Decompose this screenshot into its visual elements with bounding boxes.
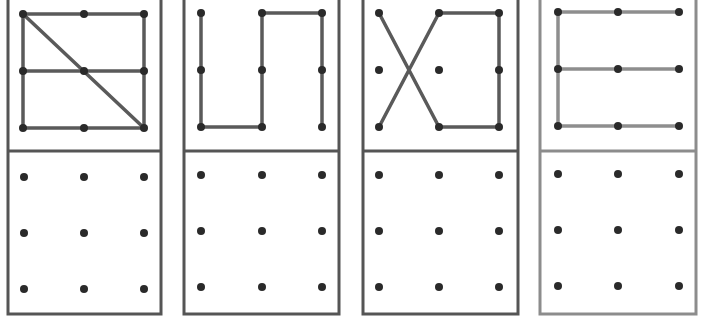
- peg-dot: [318, 9, 326, 17]
- peg-dot: [614, 8, 622, 16]
- peg-dot: [258, 283, 266, 291]
- peg-dot: [140, 229, 148, 237]
- peg-dot: [554, 65, 562, 73]
- peg-dot: [197, 9, 205, 17]
- peg-dot: [19, 124, 27, 132]
- peg-dot: [19, 67, 27, 75]
- peg-dot: [554, 282, 562, 290]
- peg-dot: [554, 226, 562, 234]
- peg-dot: [435, 66, 443, 74]
- peg-dot: [495, 9, 503, 17]
- peg-dot: [197, 66, 205, 74]
- peg-dot: [258, 171, 266, 179]
- peg-dot: [614, 282, 622, 290]
- panel-3: [363, 0, 518, 314]
- peg-dot: [435, 9, 443, 17]
- peg-dot: [375, 227, 383, 235]
- peg-dot: [140, 67, 148, 75]
- peg-dot: [435, 123, 443, 131]
- peg-dot: [614, 122, 622, 130]
- peg-dot: [197, 283, 205, 291]
- peg-dot: [318, 123, 326, 131]
- peg-dot: [435, 283, 443, 291]
- peg-dot: [375, 9, 383, 17]
- peg-dot: [140, 285, 148, 293]
- peg-dot: [675, 282, 683, 290]
- peg-dot: [554, 8, 562, 16]
- panel-frame: [8, 0, 161, 314]
- peg-dot: [375, 171, 383, 179]
- peg-dot: [80, 10, 88, 18]
- peg-dot: [495, 283, 503, 291]
- peg-dot: [318, 171, 326, 179]
- peg-dot: [435, 171, 443, 179]
- peg-dot: [140, 124, 148, 132]
- peg-dot: [614, 170, 622, 178]
- peg-dot: [258, 227, 266, 235]
- peg-dot: [375, 66, 383, 74]
- peg-dot: [495, 171, 503, 179]
- peg-dot: [140, 10, 148, 18]
- peg-dot: [20, 285, 28, 293]
- peg-dot: [554, 122, 562, 130]
- panel-4: [540, 0, 696, 314]
- peg-dot: [675, 122, 683, 130]
- peg-dot: [375, 123, 383, 131]
- peg-dot: [258, 123, 266, 131]
- peg-dot: [80, 173, 88, 181]
- geoboard-figure: [0, 0, 702, 322]
- peg-dot: [20, 173, 28, 181]
- peg-dot: [435, 227, 443, 235]
- peg-dot: [258, 9, 266, 17]
- peg-dot: [258, 66, 266, 74]
- peg-dot: [318, 66, 326, 74]
- peg-dot: [140, 173, 148, 181]
- peg-dot: [675, 170, 683, 178]
- peg-dot: [554, 170, 562, 178]
- peg-dot: [675, 226, 683, 234]
- panel-2: [184, 0, 339, 314]
- peg-dot: [80, 124, 88, 132]
- peg-dot: [318, 227, 326, 235]
- panel-frame: [540, 0, 696, 314]
- peg-dot: [197, 171, 205, 179]
- peg-dot: [495, 227, 503, 235]
- peg-dot: [20, 229, 28, 237]
- peg-dot: [495, 66, 503, 74]
- panel-frame: [363, 0, 518, 314]
- peg-dot: [675, 65, 683, 73]
- panel-1: [8, 0, 161, 314]
- peg-dot: [197, 123, 205, 131]
- peg-dot: [375, 283, 383, 291]
- peg-dot: [197, 227, 205, 235]
- peg-dot: [318, 283, 326, 291]
- peg-dot: [614, 226, 622, 234]
- peg-dot: [495, 123, 503, 131]
- peg-dot: [19, 10, 27, 18]
- peg-dot: [614, 65, 622, 73]
- peg-dot: [675, 8, 683, 16]
- peg-dot: [80, 229, 88, 237]
- peg-dot: [80, 285, 88, 293]
- peg-dot: [80, 67, 88, 75]
